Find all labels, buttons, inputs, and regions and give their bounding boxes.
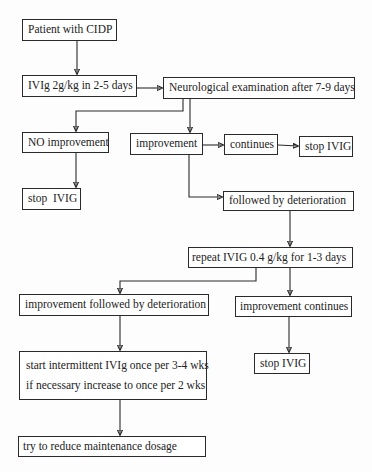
node-label: improvement followed by deterioration bbox=[25, 299, 206, 311]
node-label: Patient with CIDP bbox=[28, 24, 112, 36]
node-label-line2: if necessary increase to once per 2 wks bbox=[26, 380, 205, 392]
flowchart-canvas: Patient with CIDP IVIg 2g/kg in 2-5 days… bbox=[0, 0, 372, 472]
node-intermittent-ivig: start intermittent IVIg once per 3-4 wks… bbox=[19, 351, 207, 400]
edge-continues-to-stop bbox=[278, 145, 298, 146]
flowchart-connectors bbox=[0, 0, 372, 472]
node-stop-ivig-continues: stop IVIG bbox=[299, 136, 353, 157]
node-improvement: improvement bbox=[130, 133, 203, 155]
node-label: continues bbox=[230, 139, 274, 151]
node-ivig-initial-dose: IVIg 2g/kg in 2-5 days bbox=[22, 75, 137, 97]
node-label: improvement bbox=[136, 138, 197, 150]
node-label: repeat IVIG 0.4 g/kg for 1-3 days bbox=[192, 252, 346, 264]
node-stop-ivig-final: stop IVIG bbox=[254, 353, 310, 374]
node-label: stop IVIG bbox=[28, 193, 77, 205]
node-improvement-continues: improvement continues bbox=[235, 296, 352, 317]
node-neurological-examination: Neurological examination after 7-9 days bbox=[163, 77, 355, 99]
node-continues: continues bbox=[224, 134, 278, 155]
edge-neuro-to-no-improvement bbox=[76, 99, 183, 131]
node-patient-with-cidp: Patient with CIDP bbox=[22, 19, 117, 41]
node-repeat-ivig: repeat IVIG 0.4 g/kg for 1-3 days bbox=[188, 247, 353, 268]
node-label: IVIg 2g/kg in 2-5 days bbox=[28, 80, 133, 92]
node-stop-ivig-no-improvement: stop IVIG bbox=[22, 188, 81, 210]
node-label: stop IVIG bbox=[305, 141, 351, 153]
node-label: improvement continues bbox=[240, 301, 348, 313]
node-label: try to reduce maintenance dosage bbox=[23, 441, 177, 453]
node-followed-by-deterioration: followed by deterioration bbox=[223, 191, 354, 211]
node-label: stop IVIG bbox=[260, 358, 306, 370]
node-reduce-maintenance-dosage: try to reduce maintenance dosage bbox=[18, 436, 206, 457]
edge-repeat-to-improvement-deterioration bbox=[120, 268, 256, 293]
node-label: followed by deterioration bbox=[229, 195, 346, 207]
node-label-line1: start intermittent IVIg once per 3-4 wks bbox=[26, 360, 209, 372]
edge-improvement-to-deterioration bbox=[189, 155, 222, 197]
node-improvement-followed-by-deterioration: improvement followed by deterioration bbox=[19, 294, 209, 316]
node-label: NO improvement bbox=[28, 137, 109, 149]
node-label: Neurological examination after 7-9 days bbox=[169, 82, 355, 94]
node-no-improvement: NO improvement bbox=[22, 132, 109, 153]
